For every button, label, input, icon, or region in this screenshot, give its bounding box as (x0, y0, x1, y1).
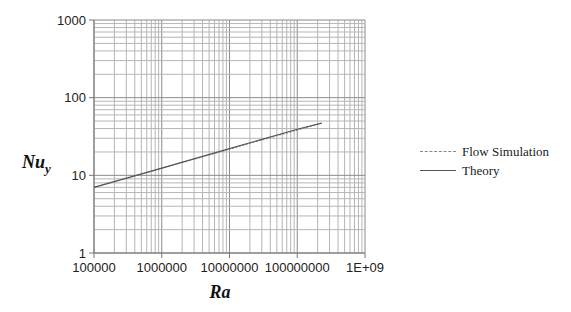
y-axis-title-main: Nu (21, 152, 45, 172)
x-tick-label: 1E+09 (346, 260, 384, 275)
x-tick-label: 100000000 (265, 260, 330, 275)
y-tick-label: 10 (72, 168, 86, 183)
solid-line-swatch-icon (420, 170, 456, 171)
dashed-line-swatch-icon (420, 151, 456, 152)
y-tick-label: 1 (79, 246, 86, 261)
y-axis-title: Nuy (21, 152, 51, 176)
x-tick-label: 10000000 (201, 260, 259, 275)
y-tick-label: 1000 (57, 13, 86, 28)
legend-item-flow-simulation: Flow Simulation (420, 142, 549, 161)
x-axis-title: Ra (208, 282, 230, 302)
x-tick-label: 1000000 (136, 260, 187, 275)
legend-item-theory: Theory (420, 161, 549, 180)
x-tick-label: 100000 (72, 260, 115, 275)
legend: Flow Simulation Theory (420, 142, 549, 180)
x-tick-labels: 1000001000000100000001000000001E+09 (72, 260, 384, 275)
legend-label: Theory (462, 163, 500, 179)
axes (89, 20, 365, 258)
data-series (94, 123, 322, 187)
y-tick-labels: 1101001000 (57, 13, 86, 261)
y-axis-title-subscript: y (43, 161, 51, 176)
legend-label: Flow Simulation (462, 144, 549, 160)
y-tick-label: 100 (64, 90, 86, 105)
grid-lines (94, 20, 365, 253)
